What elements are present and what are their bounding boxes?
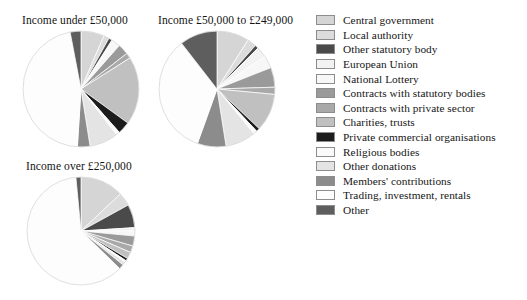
legend-item: Members' contributions	[316, 174, 522, 189]
legend-item-label: Private commercial organisations	[343, 131, 496, 143]
legend-item: National Lottery	[316, 71, 522, 86]
legend-swatch-icon	[316, 147, 335, 157]
legend-item: Charities, trusts	[316, 115, 522, 130]
pie-slice	[23, 32, 81, 147]
legend-item-label: Contracts with statutory bodies	[343, 87, 485, 99]
pie-panel-title: Income under £50,000	[22, 14, 140, 27]
legend-item: Other donations	[316, 159, 522, 174]
legend-item: Religious bodies	[316, 144, 522, 159]
legend-item-label: Contracts with private sector	[343, 102, 475, 114]
legend-swatch-icon	[316, 117, 335, 127]
legend-item-label: National Lottery	[343, 73, 419, 85]
legend-item: Contracts with private sector	[316, 101, 522, 116]
pie-svg-1	[22, 30, 140, 148]
legend-item: Contracts with statutory bodies	[316, 86, 522, 101]
legend-item-label: Local authority	[343, 29, 413, 41]
legend-item-label: Central government	[343, 14, 434, 26]
legend-swatch-icon	[316, 15, 335, 25]
legend-item: European Union	[316, 57, 522, 72]
pie-svg-3	[26, 176, 136, 286]
legend: Central governmentLocal authorityOther s…	[316, 13, 522, 217]
legend-item-label: Charities, trusts	[343, 116, 415, 128]
legend-swatch-icon	[316, 161, 335, 171]
legend-swatch-icon	[316, 59, 335, 69]
legend-swatch-icon	[316, 74, 335, 84]
pie-panel-income-under-50000: Income under £50,000	[22, 14, 140, 148]
pie-svg-2	[158, 30, 276, 148]
pie-panel-title: Income over £250,000	[26, 160, 136, 173]
legend-swatch-icon	[316, 205, 335, 215]
pie-chart-1	[22, 30, 140, 148]
legend-item-label: Other donations	[343, 160, 416, 172]
legend-item-label: Trading, investment, rentals	[343, 189, 471, 201]
legend-swatch-icon	[316, 88, 335, 98]
legend-swatch-icon	[316, 30, 335, 40]
pie-panel-income-50000-to-249000: Income £50,000 to £249,000	[158, 14, 293, 148]
legend-item: Private commercial organisations	[316, 130, 522, 145]
legend-item-label: Other	[343, 204, 369, 216]
pie-chart-3	[26, 176, 136, 286]
pie-panel-income-over-250000: Income over £250,000	[26, 160, 136, 286]
legend-swatch-icon	[316, 176, 335, 186]
legend-item-label: European Union	[343, 58, 418, 70]
legend-item: Other statutory body	[316, 42, 522, 57]
pie-chart-2	[158, 30, 293, 148]
legend-item-label: Religious bodies	[343, 146, 419, 158]
legend-item: Other	[316, 203, 522, 218]
pie-chart-figure: Income under £50,000 Income £50,000 to £…	[0, 0, 527, 300]
legend-item-label: Other statutory body	[343, 43, 438, 55]
legend-swatch-icon	[316, 190, 335, 200]
legend-swatch-icon	[316, 44, 335, 54]
pie-panel-title: Income £50,000 to £249,000	[158, 14, 293, 27]
legend-swatch-icon	[316, 103, 335, 113]
legend-swatch-icon	[316, 132, 335, 142]
legend-item-label: Members' contributions	[343, 175, 451, 187]
legend-item: Local authority	[316, 28, 522, 43]
legend-item: Central government	[316, 13, 522, 28]
legend-item: Trading, investment, rentals	[316, 188, 522, 203]
